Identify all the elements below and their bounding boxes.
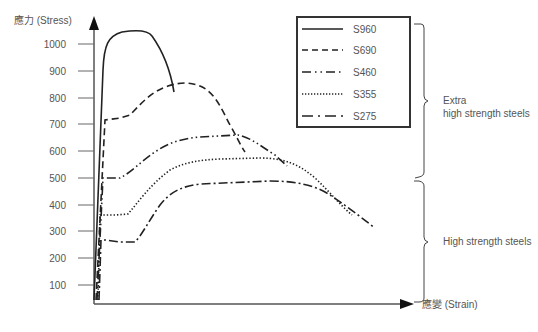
group-label-high: High strength steels (443, 236, 531, 247)
svg-text:200: 200 (49, 253, 66, 264)
brace-high-strength-icon (414, 181, 428, 302)
svg-text:800: 800 (49, 93, 66, 104)
x-axis-label: 應變 (Strain) (422, 298, 478, 310)
y-axis-arrow-icon (89, 16, 99, 30)
svg-text:300: 300 (49, 226, 66, 237)
legend-label-s960: S960 (353, 24, 377, 35)
brace-extra-high-strength-icon (414, 24, 428, 178)
group-braces (414, 24, 428, 302)
svg-text:1000: 1000 (44, 39, 67, 50)
legend: S960 S690 S460 S355 S275 (297, 17, 410, 127)
curve-s690 (96, 83, 245, 300)
svg-text:900: 900 (49, 66, 66, 77)
curve-s355 (98, 158, 352, 300)
svg-text:400: 400 (49, 200, 66, 211)
svg-text:600: 600 (49, 146, 66, 157)
y-tick-labels: 100 200 300 400 500 600 700 800 900 1000 (44, 39, 67, 291)
group-label-extra-line2: high strength steels (443, 108, 530, 119)
y-ticks (78, 44, 94, 285)
legend-label-s275: S275 (353, 111, 377, 122)
curve-s460 (97, 135, 287, 300)
group-label-extra-line1: Extra (443, 95, 467, 106)
legend-label-s690: S690 (353, 45, 377, 56)
svg-text:100: 100 (49, 280, 66, 291)
legend-label-s355: S355 (353, 89, 377, 100)
curve-s960 (94, 31, 174, 300)
stress-strain-chart: 應力 (Stress) 應變 (Strain) 100 200 300 400 … (0, 0, 538, 332)
legend-label-s460: S460 (353, 67, 377, 78)
y-axis-label: 應力 (Stress) (14, 14, 72, 26)
svg-text:500: 500 (49, 173, 66, 184)
x-axis-arrow-icon (400, 299, 414, 309)
svg-text:700: 700 (49, 119, 66, 130)
